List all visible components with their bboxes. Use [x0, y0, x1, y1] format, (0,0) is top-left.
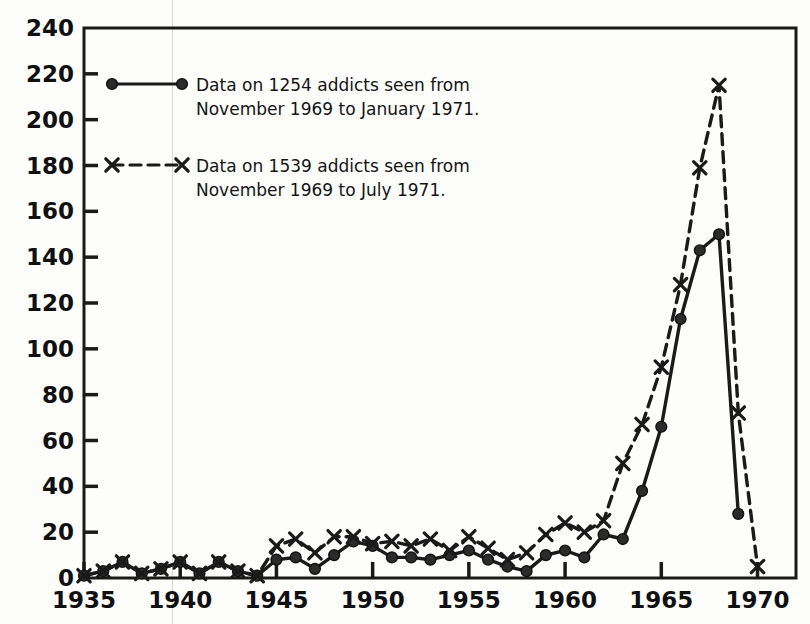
data-point-marker	[560, 545, 571, 556]
data-point-marker	[329, 550, 340, 561]
y-tick-label: 20	[42, 519, 74, 545]
legend-circle-marker	[107, 79, 118, 90]
y-tick-label: 180	[26, 153, 74, 179]
data-point-marker	[617, 534, 628, 545]
x-tick-label: 1965	[629, 587, 693, 613]
chart-figure: 020406080100120140160180200220240 193519…	[0, 0, 810, 624]
data-series-layer	[78, 79, 764, 582]
x-tick-label: 1955	[437, 587, 501, 613]
y-tick-label: 100	[26, 336, 74, 362]
data-point-marker	[598, 529, 609, 540]
data-point-marker	[386, 552, 397, 563]
x-tick-label: 1935	[52, 587, 116, 613]
data-point-marker	[271, 554, 282, 565]
legend-circle-marker	[177, 79, 188, 90]
data-point-marker	[656, 421, 667, 432]
legend-label-line1: Data on 1254 addicts seen from	[196, 75, 470, 95]
y-tick-label: 120	[26, 290, 74, 316]
y-axis-ticks	[84, 74, 98, 532]
data-point-marker	[310, 563, 321, 574]
y-tick-label: 60	[42, 428, 74, 454]
series-2	[78, 79, 764, 582]
x-tick-label: 1960	[533, 587, 597, 613]
legend-label-line2: November 1969 to January 1971.	[196, 99, 480, 119]
y-axis-labels: 020406080100120140160180200220240	[26, 15, 74, 591]
data-point-marker	[637, 486, 648, 497]
y-tick-label: 240	[26, 15, 74, 41]
legend-item-1: Data on 1254 addicts seen fromNovember 1…	[107, 75, 480, 119]
y-tick-label: 140	[26, 244, 74, 270]
data-point-marker	[540, 550, 551, 561]
x-tick-label: 1950	[341, 587, 405, 613]
line-chart: 020406080100120140160180200220240 193519…	[0, 0, 810, 624]
data-point-marker	[425, 554, 436, 565]
legend-label-line1: Data on 1539 addicts seen from	[196, 156, 470, 176]
y-tick-label: 40	[42, 473, 74, 499]
x-axis-labels: 19351940194519501955196019651970	[52, 587, 790, 613]
series-1	[79, 229, 744, 581]
y-tick-label: 220	[26, 61, 74, 87]
data-point-marker	[733, 508, 744, 519]
data-point-marker	[675, 314, 686, 325]
data-point-marker	[579, 552, 590, 563]
series-line	[84, 234, 738, 575]
data-point-marker	[694, 245, 705, 256]
legend-label-line2: November 1969 to July 1971.	[196, 180, 446, 200]
y-tick-label: 200	[26, 107, 74, 133]
data-point-marker	[521, 566, 532, 577]
chart-legend: Data on 1254 addicts seen fromNovember 1…	[106, 75, 480, 200]
data-point-marker	[483, 554, 494, 565]
y-tick-label: 80	[42, 382, 74, 408]
data-point-marker	[714, 229, 725, 240]
data-point-marker	[463, 545, 474, 556]
x-tick-label: 1940	[148, 587, 212, 613]
data-point-marker	[290, 552, 301, 563]
data-point-marker	[406, 552, 417, 563]
y-tick-label: 160	[26, 198, 74, 224]
x-tick-label: 1970	[726, 587, 790, 613]
legend-item-2: Data on 1539 addicts seen fromNovember 1…	[106, 156, 470, 200]
x-tick-label: 1945	[244, 587, 308, 613]
